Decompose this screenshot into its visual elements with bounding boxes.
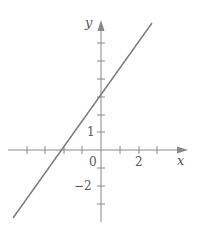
- y-axis-arrow-icon: [98, 20, 105, 31]
- y-tick-label-neg2: −2: [74, 179, 92, 193]
- y-tick-label-1: 1: [87, 125, 95, 139]
- x-axis: [8, 146, 188, 154]
- y-axis-label: y: [84, 15, 93, 30]
- y-axis: [97, 20, 105, 222]
- x-tick-label-2: 2: [135, 155, 143, 169]
- origin-label: 0: [89, 155, 97, 169]
- x-axis-label: x: [177, 153, 185, 168]
- line-graph: y x 0 2 1 −2: [0, 0, 198, 230]
